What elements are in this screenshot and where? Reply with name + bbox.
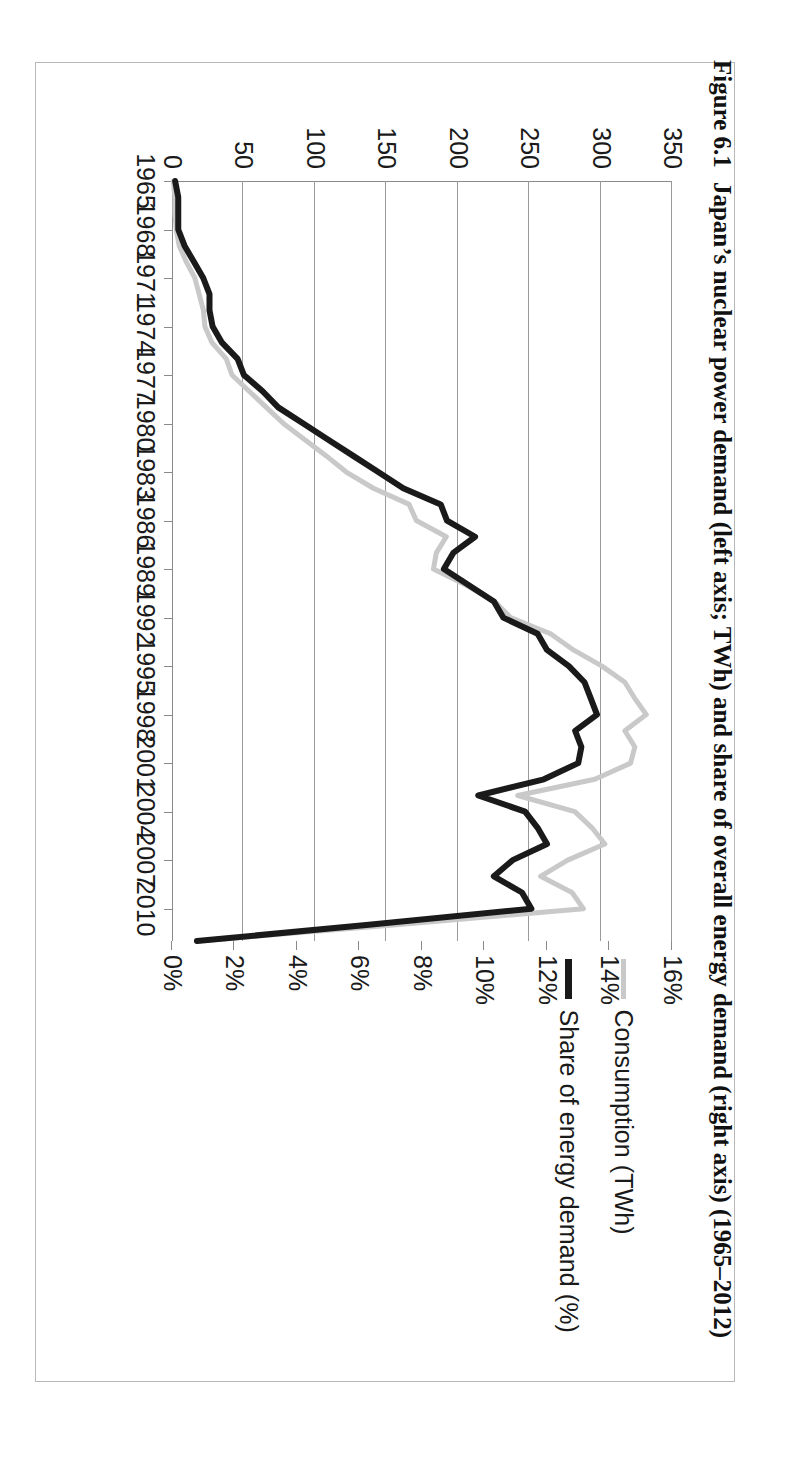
left-axis-tick-label: 50 <box>229 141 258 181</box>
category-axis-tick-mark <box>164 278 172 279</box>
left-axis-tick-label: 0 <box>158 155 187 181</box>
category-axis-tick-mark <box>164 909 172 910</box>
caption-rotation-wrapper: Figure 6.1Japan’s nuclear power demand (… <box>702 60 742 1450</box>
category-axis-tick-mark <box>164 230 172 231</box>
category-axis-tick-mark <box>164 521 172 522</box>
figure-caption-text: Japan’s nuclear power demand (left axis;… <box>709 182 736 1338</box>
legend-label: Share of energy demand (%) <box>554 1009 583 1333</box>
right-axis-tick-label: 6% <box>345 941 374 991</box>
right-axis-tick-label: 16% <box>658 941 687 1005</box>
figure-caption: Figure 6.1Japan’s nuclear power demand (… <box>702 60 742 1450</box>
category-axis-tick-label: 1983 <box>131 444 160 500</box>
figure-rotation-wrapper: Consumption (TWh) Share of energy demand… <box>35 62 735 1382</box>
right-axis-tick-mark <box>296 941 297 950</box>
category-axis-tick-mark <box>164 812 172 813</box>
right-axis-tick-label: 2% <box>220 941 249 991</box>
legend-item-consumption: Consumption (TWh) <box>609 959 638 1333</box>
left-axis-tick-label: 200 <box>443 127 472 181</box>
right-axis-tick-mark <box>609 941 610 950</box>
series-lines <box>172 181 672 941</box>
category-axis-tick-mark <box>164 424 172 425</box>
left-axis-tick-label: 150 <box>372 127 401 181</box>
category-axis-tick-label: 1995 <box>131 638 160 694</box>
category-axis-tick-label: 1992 <box>131 590 160 646</box>
category-axis-tick-label: 2001 <box>131 735 160 791</box>
category-axis-tick-label: 1965 <box>131 153 160 209</box>
category-axis-tick-mark <box>164 375 172 376</box>
plot-area: 050100150200250300350 0%2%4%6%8%10%12%14… <box>172 181 672 941</box>
category-axis-tick-label: 1986 <box>131 493 160 549</box>
right-axis-tick-label: 0% <box>158 941 187 991</box>
category-axis-tick-mark <box>164 860 172 861</box>
right-axis-tick-mark <box>484 941 485 950</box>
legend-item-share: Share of energy demand (%) <box>554 959 583 1333</box>
right-axis-tick-label: 14% <box>595 941 624 1005</box>
category-axis-tick-label: 2007 <box>131 832 160 888</box>
category-axis-tick-mark <box>164 715 172 716</box>
category-axis-tick-label: 1968 <box>131 202 160 258</box>
line-consumption <box>173 181 646 941</box>
category-axis-tick-mark <box>164 181 172 182</box>
left-axis-tick-label: 300 <box>586 127 615 181</box>
right-axis-tick-mark <box>546 941 547 950</box>
category-axis-tick-label: 1977 <box>131 347 160 403</box>
category-axis-tick-mark <box>164 618 172 619</box>
chart-figure: Consumption (TWh) Share of energy demand… <box>35 62 735 1382</box>
line-swatch-icon <box>565 959 572 999</box>
category-axis-tick-label: 2010 <box>131 881 160 937</box>
right-axis-tick-label: 4% <box>283 941 312 991</box>
category-axis-tick-mark <box>164 763 172 764</box>
right-axis-tick-label: 12% <box>533 941 562 1005</box>
right-axis-tick-label: 8% <box>408 941 437 991</box>
category-axis-tick-label: 1971 <box>131 250 160 306</box>
figure-page: Consumption (TWh) Share of energy demand… <box>0 0 791 1474</box>
category-axis-tick-mark <box>164 472 172 473</box>
right-axis-tick-mark <box>671 941 672 950</box>
category-axis-tick-mark <box>164 327 172 328</box>
category-axis-tick-mark <box>164 569 172 570</box>
left-axis-tick-label: 250 <box>515 127 544 181</box>
category-axis-tick-label: 1974 <box>131 299 160 355</box>
category-axis-tick-label: 2004 <box>131 784 160 840</box>
category-axis-tick-mark <box>164 666 172 667</box>
right-axis-tick-mark <box>171 941 172 950</box>
figure-number: Figure 6.1 <box>709 60 736 168</box>
chart-legend: Consumption (TWh) Share of energy demand… <box>528 959 638 1333</box>
right-axis-tick-mark <box>421 941 422 950</box>
left-axis-tick-label: 100 <box>300 127 329 181</box>
category-axis-tick-label: 1989 <box>131 541 160 597</box>
line-share <box>175 181 597 941</box>
right-axis-tick-mark <box>359 941 360 950</box>
left-axis-tick-label: 350 <box>658 127 687 181</box>
legend-label: Consumption (TWh) <box>609 1009 638 1234</box>
category-axis-tick-label: 1980 <box>131 396 160 452</box>
right-axis-tick-label: 10% <box>470 941 499 1005</box>
category-axis-tick-label: 1998 <box>131 687 160 743</box>
right-axis-tick-mark <box>234 941 235 950</box>
